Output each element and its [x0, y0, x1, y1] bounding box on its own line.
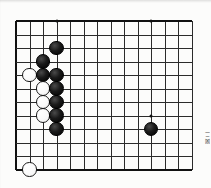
board-line-horizontal-2 [16, 35, 192, 36]
board-line-vertical-9 [124, 21, 125, 170]
board-line-horizontal-1 [16, 20, 192, 22]
board-line-vertical-13 [178, 21, 179, 170]
board-line-horizontal-11 [16, 156, 192, 157]
board-line-vertical-7 [97, 21, 98, 170]
board-line-vertical-6 [84, 21, 85, 170]
black-stone-c4[interactable] [36, 54, 50, 68]
black-stone-c5[interactable] [36, 68, 50, 82]
white-stone-b5[interactable] [22, 68, 36, 82]
board-line-vertical-14 [192, 21, 193, 170]
board-line-horizontal-9 [16, 129, 192, 130]
board-line-vertical-12 [165, 21, 166, 170]
board-line-vertical-11 [151, 21, 152, 170]
black-stone-d8[interactable] [49, 108, 63, 122]
board-line-vertical-2 [30, 21, 31, 170]
black-stone-d9[interactable] [49, 122, 63, 136]
side-caption-text: 図 二 [203, 132, 210, 144]
diagram-page: 図 二 [0, 0, 211, 188]
board-line-vertical-10 [138, 21, 139, 170]
board-line-horizontal-12 [16, 169, 192, 171]
white-stone-c8[interactable] [36, 108, 50, 122]
hoshi-upper-left-icon [55, 20, 58, 23]
white-stone-b12[interactable] [22, 162, 36, 176]
black-stone-k9[interactable] [144, 122, 158, 136]
board-line-vertical-8 [111, 21, 112, 170]
hoshi-lower-right-icon [150, 114, 153, 117]
board-line-horizontal-10 [16, 143, 192, 144]
black-stone-d6[interactable] [49, 81, 63, 95]
board-line-vertical-1 [15, 21, 17, 170]
board-line-horizontal-3 [16, 48, 192, 49]
board-line-vertical-5 [70, 21, 71, 170]
black-stone-d5[interactable] [49, 68, 63, 82]
white-stone-c7[interactable] [36, 95, 50, 109]
hoshi-upper-right-icon [150, 20, 153, 23]
white-stone-c6[interactable] [36, 81, 50, 95]
black-stone-d3[interactable] [49, 41, 63, 55]
black-stone-d7[interactable] [49, 95, 63, 109]
go-board[interactable] [0, 0, 211, 188]
